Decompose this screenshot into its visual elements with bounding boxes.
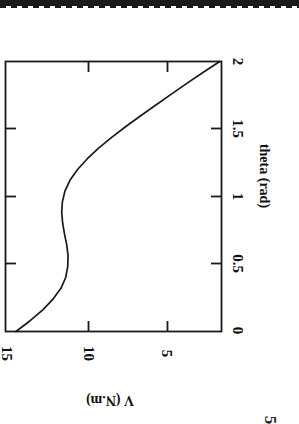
theta-tick-label-1: 1 [229,193,246,201]
theta-tick-label-0: 0 [229,327,246,335]
v-tick-label-15: 15 [0,346,15,361]
theta-tick-label-1p5: 1.5 [229,119,246,138]
plot-frame [6,62,222,332]
x-axis-title: theta (rad) [256,144,272,208]
v-tick-marks [89,62,168,332]
v-tick-label-5: 5 [158,350,175,358]
data-series-line [16,62,220,332]
theta-tick-label-0p5: 0.5 [229,254,246,273]
theta-tick-marks [6,129,222,264]
stray-digit-artifact: 5 [260,416,280,424]
y-axis-title: V (N.m) [86,392,134,408]
v-tick-label-10: 10 [80,346,97,361]
theta-tick-label-2: 2 [229,58,246,66]
